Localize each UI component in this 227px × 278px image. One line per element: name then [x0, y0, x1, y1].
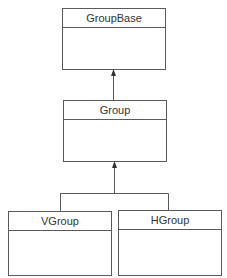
arrowhead-icon	[112, 161, 117, 168]
arrowhead-icon	[111, 69, 116, 76]
class-hgroup: HGroup	[118, 210, 222, 276]
class-name: GroupBase	[63, 9, 165, 28]
class-name: Group	[64, 101, 166, 120]
class-name: HGroup	[119, 211, 221, 230]
class-vgroup: VGroup	[8, 211, 112, 276]
inheritance-branch	[61, 194, 169, 212]
class-group: Group	[63, 100, 167, 162]
class-groupbase: GroupBase	[62, 8, 166, 70]
class-name: VGroup	[9, 212, 111, 231]
